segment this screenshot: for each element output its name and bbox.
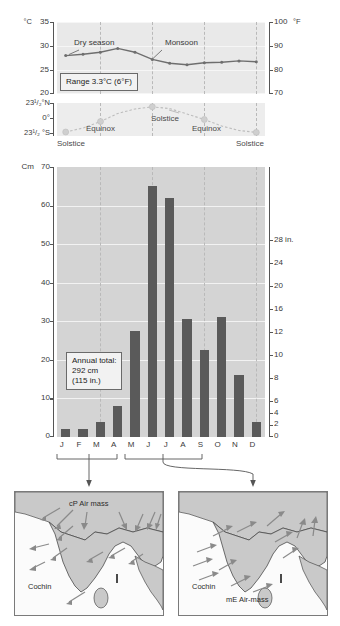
- celsius-unit-label: °C: [18, 18, 32, 26]
- season-brackets: [0, 450, 340, 490]
- fahrenheit-unit-label: °F: [293, 18, 301, 26]
- bar-apr: [113, 406, 122, 437]
- cm-unit-label: Cm: [12, 163, 34, 171]
- annual-total-line-1: Annual total:: [72, 356, 116, 366]
- in-tick-28: 28 in.: [274, 236, 294, 244]
- cm-tick-10: 10: [35, 394, 50, 402]
- gridline: [57, 321, 265, 322]
- celsius-tick-35: 35: [32, 18, 49, 26]
- month-label-oct: O: [211, 440, 225, 449]
- annual-total-line-3: (115 in.): [72, 376, 116, 386]
- month-label-nov: N: [228, 440, 242, 449]
- in-tick-12: 12: [274, 328, 283, 336]
- cm-tick-60: 60: [35, 201, 50, 209]
- equinox-label-march: Equinox: [86, 125, 115, 133]
- temperature-axis-fahrenheit: [265, 22, 270, 94]
- bar-feb: [78, 429, 87, 437]
- gridline: [57, 283, 265, 284]
- in-tick-10: 10: [274, 351, 283, 359]
- celsius-tick-20: 20: [32, 89, 49, 97]
- bar-may: [130, 331, 139, 437]
- fahrenheit-tick-70: 70: [274, 89, 283, 97]
- bar-jul: [165, 198, 174, 437]
- temperature-range-callout: Range 3.3°C (6°F): [60, 73, 138, 91]
- bar-sep: [200, 350, 209, 437]
- solstice-label-january: Solstice: [57, 140, 85, 148]
- in-tick-2: 2: [274, 420, 278, 428]
- in-tick-20: 20: [274, 282, 283, 290]
- precipitation-axis-cm: [53, 167, 58, 437]
- map-dry-season-graphic: [15, 492, 163, 615]
- sun-declination-panel: Solstice Equinox Equinox: [57, 103, 265, 136]
- gridline: [57, 206, 265, 207]
- map-monsoon-air-mass-label: mE Air-mass: [226, 595, 269, 604]
- dry-season-annotation: Dry season: [74, 39, 114, 47]
- sri-lanka: [94, 588, 108, 608]
- month-label-mar: M: [89, 440, 103, 449]
- in-tick-8: 8: [274, 374, 278, 382]
- bar-oct: [217, 317, 226, 437]
- month-label-jun: J: [141, 440, 155, 449]
- fahrenheit-tick-80: 80: [274, 66, 283, 74]
- cm-tick-30: 30: [35, 317, 50, 325]
- map-dry-city-label: Cochin: [28, 582, 51, 591]
- precipitation-chart-panel: [57, 167, 265, 437]
- in-tick-16: 16: [274, 305, 283, 313]
- month-label-feb: F: [72, 440, 86, 449]
- month-label-jul: J: [159, 440, 173, 449]
- month-label-jan: J: [55, 440, 69, 449]
- declination-axis: [53, 103, 58, 136]
- bar-jun: [148, 186, 157, 437]
- cm-tick-20: 20: [35, 356, 50, 364]
- equinox-line-march: [100, 167, 101, 437]
- cm-tick-50: 50: [35, 240, 50, 248]
- in-tick-24: 24: [274, 259, 283, 267]
- map-dry-air-mass-label: cP Air mass: [69, 499, 108, 508]
- cm-tick-70: 70: [35, 163, 50, 171]
- precipitation-axis-inches: [265, 167, 270, 437]
- solstice-line-dec: [256, 167, 257, 437]
- annual-total-line-2: 292 cm: [72, 366, 116, 376]
- island-strip: [280, 574, 282, 583]
- solstice-label-december: Solstice: [236, 140, 264, 148]
- in-tick-6: 6: [274, 397, 278, 405]
- celsius-tick-30: 30: [32, 42, 49, 50]
- fahrenheit-tick-100: 100: [274, 18, 287, 26]
- declination-tick-north: 23¹/₂°N: [5, 99, 50, 107]
- month-label-apr: A: [107, 440, 121, 449]
- bar-nov: [234, 375, 243, 437]
- bar-dec: [252, 422, 261, 437]
- month-label-sep: S: [193, 440, 207, 449]
- equinox-label-sept: Equinox: [192, 125, 221, 133]
- cm-tick-40: 40: [35, 279, 50, 287]
- celsius-tick-25: 25: [32, 66, 49, 74]
- map-dry-season[interactable]: cP Air mass Cochin: [14, 491, 164, 616]
- month-label-may: M: [124, 440, 138, 449]
- map-monsoon-city-label: Cochin: [192, 582, 215, 591]
- cm-tick-0: 0: [35, 432, 50, 440]
- map-monsoon[interactable]: Cochin mE Air-mass: [178, 491, 328, 616]
- bar-jan: [61, 429, 70, 437]
- declination-tick-south: 23¹/₂ °S: [5, 129, 50, 137]
- gridline: [57, 244, 265, 245]
- month-label-aug: A: [176, 440, 190, 449]
- monsoon-annotation: Monsoon: [165, 39, 198, 47]
- temperature-axis-celsius: [53, 22, 58, 94]
- island-strip: [116, 574, 118, 583]
- in-tick-4: 4: [274, 409, 278, 417]
- fahrenheit-tick-90: 90: [274, 42, 283, 50]
- bar-aug: [182, 319, 191, 437]
- bar-mar: [96, 422, 105, 437]
- declination-tick-equator: 0°: [5, 114, 50, 122]
- month-label-dec: D: [245, 440, 259, 449]
- solstice-label-june: Solstice: [151, 115, 179, 123]
- annual-total-callout: Annual total: 292 cm (115 in.): [66, 352, 122, 390]
- in-tick-0: 0: [274, 432, 278, 440]
